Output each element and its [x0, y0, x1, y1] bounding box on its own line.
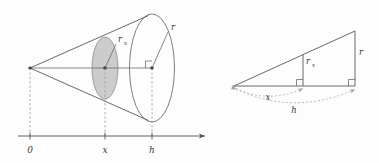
cross-section-radius-label-base: r	[118, 34, 123, 44]
tick-label-h: h	[149, 145, 155, 155]
outer-right-angle-marker	[349, 80, 356, 87]
base-radius-label: r	[171, 22, 176, 32]
cone-slant-upper	[30, 16, 149, 69]
cross-section-radius-label-sub: x	[124, 40, 128, 46]
tick-label-x: x	[102, 145, 107, 155]
inner-right-angle-marker	[297, 80, 304, 87]
figure-root: 0 x h r x r	[0, 0, 379, 163]
cone-diagram-svg: 0 x h r x r	[0, 0, 379, 163]
cone-slant-lower	[30, 68, 149, 121]
right-triangle-group: r x r x h	[234, 31, 364, 115]
tick-label-zero: 0	[27, 145, 33, 155]
triangle-hypotenuse	[234, 31, 355, 86]
inner-height-label: r x	[306, 56, 316, 68]
cross-section-radius-label: r x	[118, 34, 128, 46]
inner-height-label-sub: x	[312, 62, 316, 68]
arc-label-x: x	[266, 92, 271, 102]
outer-height-label: r	[359, 47, 364, 57]
arc-label-h: h	[291, 105, 296, 115]
inner-height-label-base: r	[306, 56, 311, 66]
left-cone-group: 0 x h r x r	[18, 14, 205, 155]
base-radius-line	[152, 32, 168, 68]
